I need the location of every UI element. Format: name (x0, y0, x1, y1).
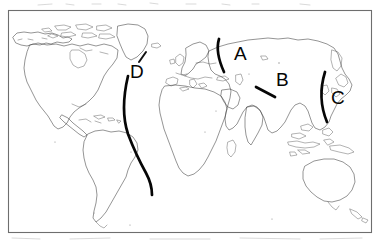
marker-c-arc (321, 72, 327, 122)
arabia (221, 89, 240, 109)
map-frame (9, 11, 372, 233)
africa (159, 85, 227, 176)
marker-d-curve (124, 76, 152, 195)
europe (181, 42, 209, 76)
new-zealand (350, 209, 368, 223)
arctic-islands (42, 24, 115, 39)
british-isles (170, 54, 184, 66)
label-d: D (130, 61, 144, 82)
marker-a-arc (218, 39, 224, 72)
label-c: C (331, 87, 345, 108)
indonesia (288, 124, 334, 156)
map-labels: A B C D (130, 43, 345, 108)
map-canvas: A B C D (0, 0, 380, 242)
india (245, 106, 263, 145)
south-america (83, 130, 138, 222)
world-map-figure: A B C D (0, 0, 380, 242)
scan-speckles (54, 62, 279, 225)
label-a: A (234, 43, 247, 64)
kamchatka (331, 50, 342, 71)
mediterranean (166, 77, 207, 91)
label-b: B (276, 69, 289, 90)
marker-b-line (256, 87, 275, 97)
new-guinea (330, 145, 354, 154)
coastlines (13, 24, 368, 228)
scan-noise (12, 3, 362, 239)
madagascar (227, 140, 236, 157)
north-america (24, 43, 118, 129)
iceland (152, 43, 161, 48)
hudson-bay (70, 50, 87, 68)
australia (303, 159, 355, 202)
